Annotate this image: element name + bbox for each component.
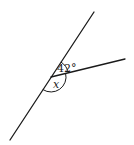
diagram-svg: 42° x: [0, 0, 134, 145]
angle-label-42: 42°: [57, 62, 77, 75]
angle-label-x: x: [53, 78, 60, 91]
straight-line: [10, 12, 94, 140]
angle-diagram: 42° x: [0, 0, 134, 145]
